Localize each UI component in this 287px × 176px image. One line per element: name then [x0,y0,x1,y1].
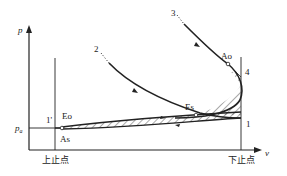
label-as: As [60,134,70,144]
label-curve-2: 2 [94,44,99,54]
label-1: 1 [246,119,251,129]
label-ao: Ao [221,51,232,61]
label-eo: Eo [62,111,72,121]
blowdown-hatch [196,85,241,115]
label-curve-3: 3 [171,8,176,18]
direction-arrows [132,42,200,127]
y-axis-label: p [17,25,23,35]
curve-3-arrow-icon [194,42,200,47]
y-axis-arrow-icon [26,25,32,33]
bdc-label: 下止点 [228,154,255,165]
label-4: 4 [245,67,250,77]
curve-3-dotted [177,15,184,24]
tdc-label: 上止点 [42,154,69,165]
x-axis-arrow-icon [254,147,262,153]
label-1-prime: 1' [46,115,53,125]
curve-2-arrow-icon [132,88,138,93]
curve-2-dotted [101,53,109,63]
point-es [194,113,198,117]
label-es: Es [185,102,194,112]
loop-lower-arrow-icon [175,124,180,127]
x-axis-label: v [265,148,269,158]
point-ao [226,62,230,66]
pv-diagram: p v 上止点 下止点 pa [0,0,287,176]
pa-label: pa [14,123,23,134]
point-eo-as [60,126,64,130]
